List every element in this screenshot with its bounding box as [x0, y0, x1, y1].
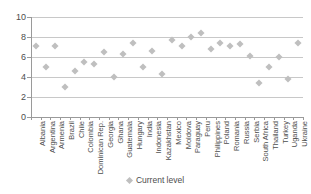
data-point-marker: [61, 83, 68, 90]
data-point-marker: [197, 29, 204, 36]
data-point-marker: [236, 40, 243, 47]
x-axis-tick-mark: [274, 117, 275, 120]
x-axis-tick-mark: [31, 117, 32, 120]
y-axis-tick-labels: 0246810: [0, 0, 26, 194]
x-axis-tick-mark: [99, 117, 100, 120]
data-point-marker: [32, 42, 39, 49]
data-point-marker: [188, 33, 195, 40]
x-axis-label: India: [146, 121, 154, 137]
x-axis-label: Turkey: [282, 121, 290, 144]
x-axis-tick-mark: [50, 117, 51, 120]
x-axis-label: Chile: [78, 121, 86, 138]
x-axis-label: Philippines: [214, 121, 222, 157]
legend-marker-icon: [126, 177, 133, 184]
x-axis-tick-mark: [206, 117, 207, 120]
data-point-marker: [71, 67, 78, 74]
gridline: [31, 37, 303, 38]
gridline: [31, 57, 303, 58]
x-axis-label: Dominican Rep.: [97, 121, 105, 174]
data-point-marker: [207, 45, 214, 52]
y-axis-tick-label: 2: [2, 93, 26, 102]
y-axis-tick-label: 8: [2, 33, 26, 42]
data-point-marker: [91, 60, 98, 67]
x-axis-label: Peru: [204, 121, 212, 137]
data-point-marker: [217, 39, 224, 46]
y-axis-tick-label: 6: [2, 53, 26, 62]
x-axis-label: Argentina: [49, 121, 57, 153]
x-axis-label: Thailand: [272, 121, 280, 150]
y-axis-line: [31, 17, 32, 118]
y-axis-tick-mark: [27, 97, 31, 98]
x-axis-label: Armenia: [58, 121, 66, 149]
chart-legend: Current level: [0, 176, 311, 185]
x-axis-tick-mark: [186, 117, 187, 120]
y-axis-tick-label: 10: [2, 13, 26, 22]
x-axis-tick-mark: [216, 117, 217, 120]
x-axis-tick-mark: [284, 117, 285, 120]
x-axis-tick-mark: [225, 117, 226, 120]
x-axis-tick-mark: [235, 117, 236, 120]
x-axis-label: Albania: [39, 121, 47, 146]
x-axis-label: Indonesia: [155, 121, 163, 154]
x-axis-label: Poland: [223, 121, 231, 144]
data-point-marker: [129, 39, 136, 46]
x-axis-label: Ukraine: [301, 121, 309, 147]
data-point-marker: [100, 48, 107, 55]
y-axis-tick-mark: [27, 37, 31, 38]
data-point-marker: [295, 39, 302, 46]
x-axis-tick-mark: [177, 117, 178, 120]
gridline: [31, 97, 303, 98]
x-axis-label: Colombia: [87, 121, 95, 153]
legend-label: Current level: [136, 176, 184, 185]
y-axis-tick-mark: [27, 57, 31, 58]
x-axis-tick-mark: [254, 117, 255, 120]
data-point-marker: [42, 63, 49, 70]
x-axis-tick-mark: [89, 117, 90, 120]
x-axis-label: Ghana: [117, 121, 125, 144]
data-point-marker: [227, 42, 234, 49]
data-point-marker: [110, 73, 117, 80]
x-axis-label: Hungary: [136, 121, 144, 149]
data-point-marker: [265, 63, 272, 70]
x-axis-tick-mark: [196, 117, 197, 120]
x-axis-tick-mark: [157, 117, 158, 120]
data-point-marker: [52, 42, 59, 49]
x-axis-tick-mark: [128, 117, 129, 120]
y-axis-tick-mark: [27, 77, 31, 78]
x-axis-tick-mark: [60, 117, 61, 120]
y-axis-tick-mark: [27, 17, 31, 18]
x-axis-tick-mark: [293, 117, 294, 120]
data-point-marker: [246, 52, 253, 59]
x-axis-tick-mark: [148, 117, 149, 120]
x-axis-label: South Africa: [262, 121, 270, 161]
scatter-chart: 0246810 AlbaniaArgentinaArmeniaBrazilChi…: [0, 0, 311, 194]
x-axis-tick-mark: [80, 117, 81, 120]
plot-area: [31, 17, 303, 117]
x-axis-tick-mark: [138, 117, 139, 120]
x-axis-label: Guatemala: [126, 121, 134, 158]
x-axis-label: Georgia: [107, 121, 115, 148]
data-point-marker: [275, 53, 282, 60]
x-axis-label: Kazakhstan: [165, 121, 173, 160]
x-axis-label: Uganda: [291, 121, 299, 147]
data-point-marker: [139, 63, 146, 70]
x-axis-label: Romania: [233, 121, 241, 151]
x-axis-tick-mark: [118, 117, 119, 120]
x-axis-tick-mark: [167, 117, 168, 120]
gridline: [31, 77, 303, 78]
x-axis-tick-mark: [303, 117, 304, 120]
x-axis-tick-mark: [70, 117, 71, 120]
data-point-marker: [256, 79, 263, 86]
x-axis-label: Moldova: [185, 121, 193, 149]
y-axis-tick-label: 0: [2, 113, 26, 122]
x-axis-tick-mark: [109, 117, 110, 120]
data-point-marker: [149, 47, 156, 54]
x-axis-tick-mark: [264, 117, 265, 120]
gridline: [31, 17, 303, 18]
y-axis-tick-label: 4: [2, 73, 26, 82]
data-point-marker: [81, 58, 88, 65]
x-axis-tick-mark: [245, 117, 246, 120]
data-point-marker: [178, 42, 185, 49]
x-axis-label: Brazil: [68, 121, 76, 140]
x-axis-label: Serbia: [253, 121, 261, 143]
